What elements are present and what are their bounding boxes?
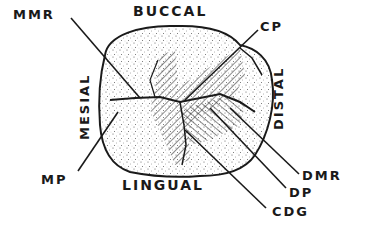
tooth-crown (99, 26, 273, 177)
callout-mmr: MMR (13, 8, 55, 21)
callout-dmr: DMR (302, 169, 342, 182)
callout-cp: CP (260, 20, 283, 33)
surface-label-mesial: MESIAL (78, 74, 91, 140)
surface-label-distal: DISTAL (272, 67, 285, 130)
callout-mp: MP (41, 173, 67, 186)
surface-label-lingual: LINGUAL (122, 178, 204, 192)
tooth-diagram: BUCCAL LINGUAL MESIAL DISTAL MMR CP MP D… (0, 0, 367, 233)
surface-label-buccal: BUCCAL (133, 4, 207, 18)
callout-cdg: CDG (272, 205, 309, 218)
callout-dp: DP (289, 186, 313, 199)
